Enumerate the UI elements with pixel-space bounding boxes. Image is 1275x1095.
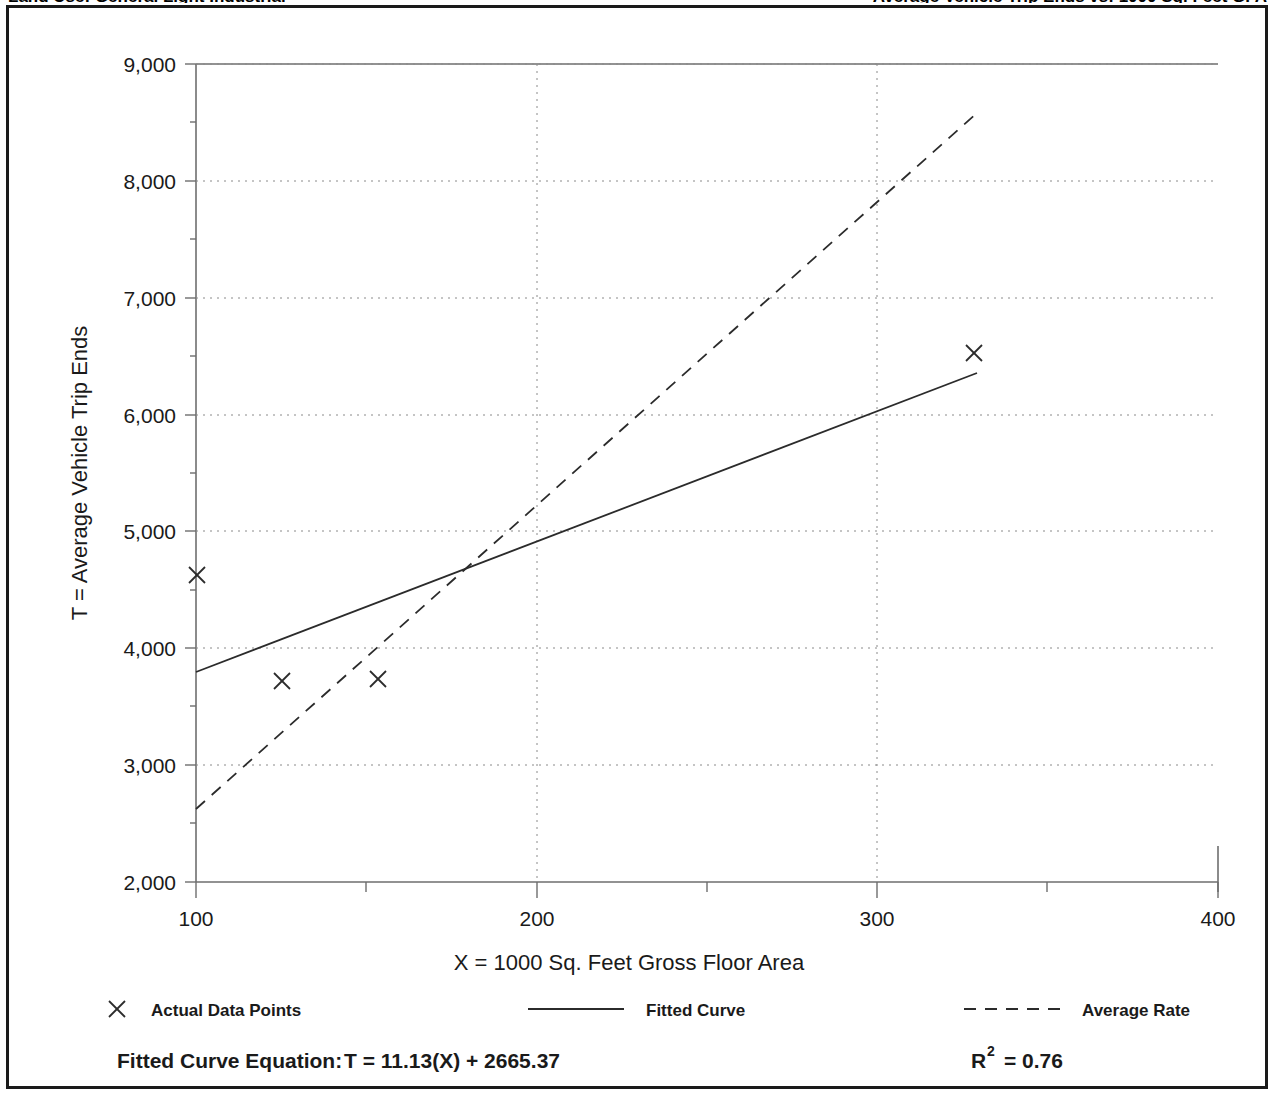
y-tick-label: 2,000 xyxy=(123,871,176,894)
page-title-right: Average Vehicle Trip Ends vs: 1000 Sq. F… xyxy=(873,0,1267,3)
x-tick-label: 200 xyxy=(519,907,554,930)
gridlines-vertical xyxy=(537,64,877,882)
y-axis-tick-labels: 9,000 8,000 7,000 6,000 5,000 4,000 3,00… xyxy=(123,53,176,894)
fitted-curve-equation-label: Fitted Curve Equation: xyxy=(117,1049,342,1072)
page-title-left: Land Use: General Light Industrial xyxy=(8,0,286,3)
series-fitted-curve xyxy=(196,373,977,672)
data-point-marker xyxy=(370,671,386,687)
legend-item-fitted-curve[interactable]: Fitted Curve xyxy=(528,1001,745,1020)
chart-area: 9,000 8,000 7,000 6,000 5,000 4,000 3,00… xyxy=(9,8,1265,1086)
legend-label: Average Rate xyxy=(1082,1001,1190,1020)
data-point-marker xyxy=(189,567,205,583)
fitted-curve-equation-value: T = 11.13(X) + 2665.37 xyxy=(344,1049,560,1072)
series-actual-data-points xyxy=(189,345,982,689)
y-tick-label: 3,000 xyxy=(123,754,176,777)
series-average-rate xyxy=(196,113,977,809)
x-tick-label: 100 xyxy=(178,907,213,930)
chart-legend: Actual Data Points Fitted Curve Average … xyxy=(109,1001,1190,1020)
data-point-marker xyxy=(274,673,290,689)
x-axis-tick-labels: 100 200 300 400 xyxy=(178,907,1235,930)
y-axis-title: T = Average Vehicle Trip Ends xyxy=(67,326,92,621)
gridlines-horizontal xyxy=(196,64,1218,765)
x-axis-title: X = 1000 Sq. Feet Gross Floor Area xyxy=(454,950,805,975)
data-point-marker xyxy=(966,345,982,361)
x-tick-label: 400 xyxy=(1200,907,1235,930)
r-squared-exponent: 2 xyxy=(987,1043,995,1059)
legend-item-average-rate[interactable]: Average Rate xyxy=(964,1001,1190,1020)
y-tick-label: 4,000 xyxy=(123,637,176,660)
y-tick-label: 7,000 xyxy=(123,287,176,310)
chart-annotations: Fitted Curve Equation: T = 11.13(X) + 26… xyxy=(117,1043,1063,1072)
scatter-chart: 9,000 8,000 7,000 6,000 5,000 4,000 3,00… xyxy=(9,8,1265,1086)
x-marker-icon xyxy=(109,1001,125,1017)
page-title-strip: Land Use: General Light Industrial Avera… xyxy=(0,0,1275,3)
y-tick-label: 6,000 xyxy=(123,404,176,427)
r-squared-value: = 0.76 xyxy=(1004,1049,1063,1072)
legend-label: Fitted Curve xyxy=(646,1001,745,1020)
figure-frame: 9,000 8,000 7,000 6,000 5,000 4,000 3,00… xyxy=(6,5,1268,1089)
y-tick-label: 8,000 xyxy=(123,170,176,193)
legend-item-actual-data-points[interactable]: Actual Data Points xyxy=(109,1001,301,1020)
legend-label: Actual Data Points xyxy=(151,1001,301,1020)
r-squared-annotation: R 2 = 0.76 xyxy=(971,1043,1063,1072)
y-tick-label: 9,000 xyxy=(123,53,176,76)
y-axis-ticks-minor xyxy=(190,122,196,823)
plot-axes xyxy=(196,64,1218,892)
y-tick-label: 5,000 xyxy=(123,520,176,543)
r-squared-symbol: R xyxy=(971,1049,986,1072)
x-tick-label: 300 xyxy=(859,907,894,930)
x-axis-ticks xyxy=(196,882,1218,898)
